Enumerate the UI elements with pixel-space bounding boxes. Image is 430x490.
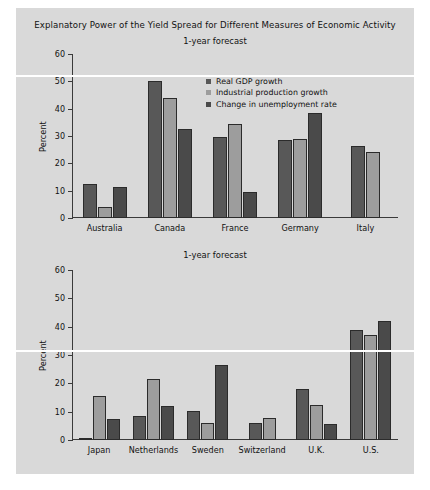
bar <box>213 137 227 218</box>
bar <box>296 389 309 440</box>
bar-group: Italy <box>333 54 398 218</box>
bar <box>350 330 363 441</box>
bar <box>366 152 380 218</box>
y-axis-tick <box>68 218 73 219</box>
bar <box>187 411 200 440</box>
bar <box>324 424 337 440</box>
legend-label: Industrial production growth <box>216 88 328 97</box>
legend-label: Real GDP growth <box>216 77 282 86</box>
bar <box>161 406 174 440</box>
bar <box>79 438 92 440</box>
bar <box>147 379 160 440</box>
bottom-chart-y-axis-label: Percent <box>38 340 48 371</box>
bar <box>249 423 262 440</box>
bar-group: Japan <box>72 270 126 440</box>
bottom-chart-plot-area: 0102030405060JapanNetherlandsSwedenSwitz… <box>72 270 398 440</box>
chart-legend: Real GDP growth Industrial production gr… <box>206 76 337 111</box>
y-axis-tick-label: 30 <box>55 132 65 141</box>
bar-group: U.K. <box>289 270 343 440</box>
bar <box>263 418 276 440</box>
bar <box>364 335 377 440</box>
x-axis-category-label: Japan <box>88 445 111 455</box>
x-axis-category-label: Germany <box>282 223 319 233</box>
legend-item-change-in-unemployment-rate: Change in unemployment rate <box>206 99 337 109</box>
x-axis-category-label: Italy <box>357 223 375 233</box>
y-axis-tick-label: 60 <box>55 50 65 59</box>
y-axis-tick-label: 20 <box>55 379 65 388</box>
y-axis-tick-label: 60 <box>55 266 65 275</box>
y-axis-tick-label: 40 <box>55 104 65 113</box>
bar <box>278 140 292 218</box>
bar-group: U.S. <box>344 270 398 440</box>
legend-item-real-gdp-growth: Real GDP growth <box>206 76 337 86</box>
bar <box>215 365 228 440</box>
y-axis-tick-label: 50 <box>55 294 65 303</box>
y-axis-tick <box>68 440 73 441</box>
bar <box>178 129 192 218</box>
bar-group: Switzerland <box>235 270 289 440</box>
legend-swatch-icon <box>206 90 211 95</box>
bar <box>93 396 106 440</box>
y-axis-tick-label: 0 <box>60 436 65 445</box>
x-axis-category-label: U.S. <box>363 445 379 455</box>
bar <box>351 146 365 218</box>
bar <box>243 192 257 218</box>
legend-label: Change in unemployment rate <box>216 100 337 109</box>
bar <box>228 124 242 218</box>
top-chart-panel: 1-year forecast Percent 0102030405060Aus… <box>16 36 414 248</box>
y-axis-tick-label: 20 <box>55 159 65 168</box>
top-chart-subtitle: 1-year forecast <box>16 36 414 46</box>
legend-item-industrial-production-growth: Industrial production growth <box>206 88 337 98</box>
bar <box>113 187 127 218</box>
y-axis-tick-label: 40 <box>55 322 65 331</box>
x-axis-category-label: Australia <box>87 223 123 233</box>
y-axis-tick-label: 30 <box>55 351 65 360</box>
bar-group: Netherlands <box>126 270 180 440</box>
bar <box>83 184 97 218</box>
bar-group: Canada <box>137 54 202 218</box>
bar <box>133 416 146 440</box>
y-axis-tick-label: 0 <box>60 214 65 223</box>
bottom-chart-panel: 1-year forecast Percent 0102030405060Jap… <box>16 250 414 472</box>
bar-group: Australia <box>72 54 137 218</box>
x-axis-category-label: Canada <box>154 223 185 233</box>
x-axis-category-label: Sweden <box>192 445 224 455</box>
figure-panel: Explanatory Power of the Yield Spread fo… <box>16 8 414 474</box>
y-axis-tick-label: 10 <box>55 407 65 416</box>
x-axis-category-label: U.K. <box>308 445 324 455</box>
y-axis-tick-label: 10 <box>55 186 65 195</box>
legend-swatch-icon <box>206 79 211 84</box>
bar <box>201 423 214 440</box>
bar <box>310 405 323 440</box>
bar <box>98 207 112 218</box>
x-axis-category-label: Switzerland <box>239 445 286 455</box>
x-axis-category-label: France <box>222 223 249 233</box>
bar <box>378 321 391 440</box>
bar <box>308 113 322 218</box>
bar <box>148 81 162 218</box>
bottom-chart-subtitle: 1-year forecast <box>16 250 414 260</box>
legend-swatch-icon <box>206 102 211 107</box>
bar <box>163 98 177 218</box>
bar <box>293 139 307 218</box>
x-axis-category-label: Netherlands <box>129 445 178 455</box>
figure-title: Explanatory Power of the Yield Spread fo… <box>16 20 414 30</box>
top-chart-y-axis-label: Percent <box>38 121 48 152</box>
y-axis-tick-label: 50 <box>55 77 65 86</box>
bar <box>107 419 120 440</box>
bar-group: Sweden <box>181 270 235 440</box>
